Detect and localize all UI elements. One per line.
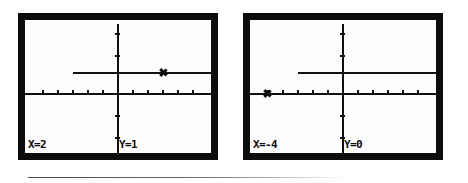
y-coordinate-readout: Y=0 [344, 139, 362, 151]
y-axis-tick [115, 115, 120, 117]
left-calculator-bezel: X=2 Y=1 [18, 13, 218, 160]
x-axis-tick [132, 90, 134, 94]
x-axis-tick [162, 90, 164, 94]
x-axis-tick [327, 90, 329, 94]
x-axis-tick [357, 90, 359, 94]
x-axis-tick [402, 90, 404, 94]
x-axis-tick [177, 90, 179, 94]
x-axis-tick [102, 90, 104, 94]
x-coordinate-readout: X=-4 [253, 139, 277, 151]
x-axis-tick [72, 90, 74, 94]
x-coordinate-readout: X=2 [28, 139, 46, 151]
x-axis-tick [387, 90, 389, 94]
y-axis-tick [115, 55, 120, 57]
y-axis-tick [340, 33, 345, 35]
right-calculator-screen[interactable]: X=-4 Y=0 [250, 20, 436, 153]
graphed-function-line [73, 72, 211, 74]
x-axis-tick [87, 90, 89, 94]
y-axis [117, 24, 119, 153]
y-axis-tick [340, 55, 345, 57]
y-axis-tick [115, 33, 120, 35]
left-calculator-screen[interactable]: X=2 Y=1 [25, 20, 211, 153]
calculator-screenshot-pair: X=2 Y=1 X=-4 Y=0 [0, 0, 468, 168]
x-axis-tick [372, 90, 374, 94]
horizontal-divider-rule [28, 177, 348, 178]
trace-cursor-icon [263, 89, 272, 98]
y-axis-tick [340, 115, 345, 117]
x-axis-tick [297, 90, 299, 94]
x-axis-tick [312, 90, 314, 94]
trace-cursor-icon [159, 68, 168, 77]
x-axis-tick [192, 90, 194, 94]
graphed-function-line [298, 72, 436, 74]
y-axis [342, 24, 344, 153]
x-axis-tick [57, 90, 59, 94]
right-calculator-bezel: X=-4 Y=0 [243, 13, 443, 160]
x-axis-tick [42, 90, 44, 94]
x-axis-tick [417, 90, 419, 94]
x-axis-tick [282, 90, 284, 94]
y-coordinate-readout: Y=1 [119, 139, 137, 151]
x-axis-tick [147, 90, 149, 94]
